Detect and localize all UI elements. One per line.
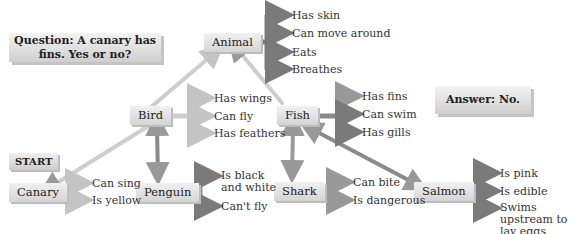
- penguin-prop: Is black and white: [221, 170, 279, 194]
- start-label: START: [9, 153, 58, 170]
- animal-prop: Has skin: [292, 9, 340, 22]
- shark-prop: Can bite: [353, 176, 400, 189]
- answer-box: Answer: No.: [435, 86, 531, 114]
- canary-prop: Can sing: [92, 177, 141, 190]
- salmon-prop: Swims upstream to lay eggs: [500, 202, 582, 234]
- answer-text: Answer: No.: [446, 93, 520, 106]
- node-fish: Fish: [277, 106, 318, 125]
- node-shark: Shark: [274, 182, 325, 201]
- salmon-prop: Is edible: [500, 185, 548, 198]
- node-bird: Bird: [130, 106, 171, 125]
- animal-prop: Eats: [292, 46, 317, 59]
- question-text: Question: A canary has fins. Yes or no?: [14, 34, 156, 61]
- fish-prop: Can swim: [362, 108, 417, 121]
- fish-prop: Has gills: [362, 126, 411, 139]
- node-canary: Canary: [9, 183, 67, 202]
- animal-prop: Breathes: [292, 63, 342, 76]
- fish-prop: Has fins: [362, 90, 407, 103]
- question-box: Question: A canary has fins. Yes or no?: [9, 33, 161, 62]
- animal-prop: Can move around: [292, 27, 390, 40]
- node-penguin: Penguin: [136, 183, 199, 202]
- bird-prop: Has feathers: [214, 127, 285, 140]
- shark-prop: Is dangerous: [353, 194, 425, 207]
- bird-prop: Has wings: [214, 92, 272, 105]
- canary-prop: Is yellow: [92, 194, 141, 207]
- bird-prop: Can fly: [214, 110, 253, 123]
- bird-prop-arrows: [172, 98, 207, 133]
- salmon-prop: Is pink: [500, 167, 538, 180]
- node-animal: Animal: [204, 33, 261, 52]
- penguin-prop: Can't fly: [221, 200, 268, 213]
